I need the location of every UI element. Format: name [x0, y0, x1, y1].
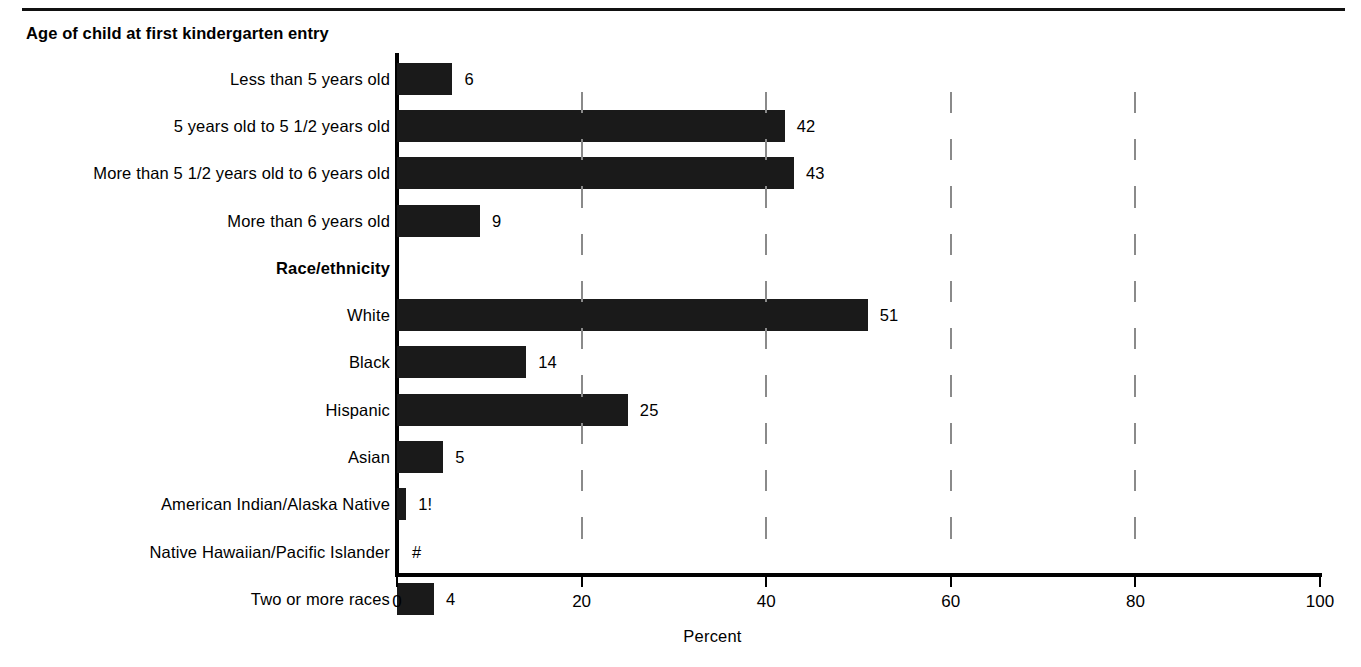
bar-category-label: American Indian/Alaska Native — [161, 495, 390, 514]
chart-bar-row: Less than 5 years old6 — [0, 55, 1361, 102]
x-axis-tick-label: 0 — [392, 592, 401, 612]
gridline-dash — [1134, 328, 1136, 349]
chart-bar-row: Black14 — [0, 339, 1361, 386]
bar-category-label: Black — [349, 353, 390, 372]
gridline-dash — [950, 234, 952, 255]
bar — [397, 488, 406, 520]
gridline-dash — [765, 517, 767, 538]
gridline-dash — [950, 92, 952, 113]
gridline-dash — [581, 234, 583, 255]
gridline-dash — [1134, 186, 1136, 207]
x-axis-tick-label: 20 — [572, 592, 591, 612]
chart-bar-row: Two or more races4 — [0, 575, 1361, 622]
bar-value-label: 9 — [492, 211, 501, 230]
bar-value-label: 43 — [806, 164, 825, 183]
gridline-dash — [1134, 92, 1136, 113]
chart-bar-row: More than 6 years old9 — [0, 197, 1361, 244]
x-axis-tick — [1319, 573, 1321, 587]
bar-value-label: 5 — [455, 448, 464, 467]
bar-category-label: 5 years old to 5 1/2 years old — [174, 116, 390, 135]
chart-bar-row: Asian5 — [0, 433, 1361, 480]
bar-value-label: 42 — [797, 116, 816, 135]
bar-chart-plot-area: Less than 5 years old65 years old to 5 1… — [0, 0, 1361, 667]
gridline-dash — [1134, 423, 1136, 444]
bar — [397, 110, 785, 142]
chart-group-row: Race/ethnicity — [0, 244, 1361, 291]
gridline-dash — [950, 139, 952, 160]
bar-value-label: 1! — [418, 495, 432, 514]
gridline-dash — [581, 470, 583, 491]
gridline-dash — [950, 186, 952, 207]
chart-bar-row: Native Hawaiian/Pacific Islander# — [0, 528, 1361, 575]
gridline-dash — [1134, 517, 1136, 538]
x-axis-tick — [396, 573, 398, 587]
bar — [397, 63, 452, 95]
gridline-dash — [765, 92, 767, 113]
bar — [397, 299, 868, 331]
x-axis-tick — [950, 573, 952, 587]
gridline-dash — [581, 139, 583, 160]
bar — [397, 205, 480, 237]
bar-value-label: 4 — [446, 589, 455, 608]
gridline-dash — [950, 375, 952, 396]
chart-bar-row: Hispanic25 — [0, 386, 1361, 433]
bar — [397, 583, 434, 615]
gridline-dash — [581, 186, 583, 207]
x-axis-tick — [765, 573, 767, 587]
bar — [397, 157, 794, 189]
gridline-dash — [765, 423, 767, 444]
gridline-dash — [581, 328, 583, 349]
gridline-dash — [581, 92, 583, 113]
x-axis-tick-label: 80 — [1126, 592, 1145, 612]
bar-value-label: # — [412, 542, 421, 561]
gridline-dash — [581, 281, 583, 302]
bar-value-label: 14 — [538, 353, 557, 372]
chart-bar-row: White51 — [0, 292, 1361, 339]
gridline-dash — [581, 375, 583, 396]
gridline-dash — [1134, 139, 1136, 160]
x-axis-tick-label: 100 — [1306, 592, 1334, 612]
x-axis-title: Percent — [0, 627, 1361, 646]
gridline-dash — [765, 186, 767, 207]
gridline-dash — [950, 470, 952, 491]
gridline-dash — [765, 328, 767, 349]
gridline-dash — [765, 234, 767, 255]
gridline-dash — [1134, 281, 1136, 302]
bar-category-label: Native Hawaiian/Pacific Islander — [150, 542, 391, 561]
gridline-dash — [1134, 470, 1136, 491]
bar — [397, 394, 628, 426]
gridline-dash — [581, 517, 583, 538]
gridline-dash — [581, 423, 583, 444]
x-axis-tick-label: 40 — [757, 592, 776, 612]
x-axis-title-text: Percent — [683, 627, 741, 645]
bar-category-label: White — [347, 306, 390, 325]
bar-value-label: 25 — [640, 400, 659, 419]
bar-category-label: Hispanic — [326, 400, 390, 419]
gridline-dash — [765, 139, 767, 160]
x-axis-tick — [1134, 573, 1136, 587]
bar-category-label: Less than 5 years old — [230, 69, 390, 88]
bar — [397, 346, 526, 378]
bar-category-label: Asian — [348, 448, 390, 467]
x-axis-tick-label: 60 — [941, 592, 960, 612]
gridline-dash — [1134, 234, 1136, 255]
gridline-dash — [765, 375, 767, 396]
gridline-dash — [765, 281, 767, 302]
gridline-dash — [950, 423, 952, 444]
gridline-dash — [1134, 375, 1136, 396]
x-axis-tick — [581, 573, 583, 587]
bar-category-label: More than 6 years old — [227, 211, 390, 230]
gridline-dash — [950, 281, 952, 302]
gridline-dash — [765, 470, 767, 491]
chart-bar-row: More than 5 1/2 years old to 6 years old… — [0, 150, 1361, 197]
chart-bar-row: 5 years old to 5 1/2 years old42 — [0, 102, 1361, 149]
gridline-dash — [950, 328, 952, 349]
chart-bar-row: American Indian/Alaska Native1! — [0, 481, 1361, 528]
bar-category-label: Two or more races — [251, 589, 390, 608]
bar-value-label: 6 — [464, 69, 473, 88]
bar — [397, 441, 443, 473]
group-heading-label: Race/ethnicity — [276, 258, 390, 277]
gridline-dash — [950, 517, 952, 538]
bar-value-label: 51 — [880, 306, 899, 325]
bar-category-label: More than 5 1/2 years old to 6 years old — [93, 164, 390, 183]
